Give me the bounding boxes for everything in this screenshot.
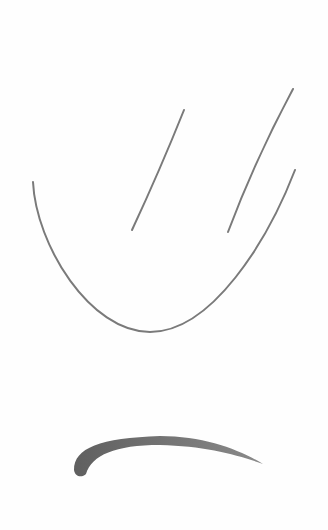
u-shaped-curve bbox=[33, 170, 295, 332]
thick-curved-stroke bbox=[74, 436, 263, 476]
left-diagonal-line bbox=[132, 110, 184, 230]
right-diagonal-line bbox=[228, 89, 293, 232]
sketch-canvas: Pencil sketch on white paper: two diagon… bbox=[0, 0, 328, 530]
sketch-drawing bbox=[0, 0, 328, 530]
